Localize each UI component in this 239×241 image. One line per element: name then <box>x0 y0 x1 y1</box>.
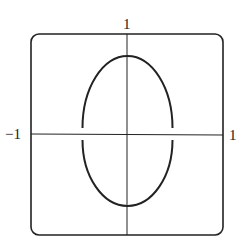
y-max-label: 1 <box>123 16 131 32</box>
graph-plot: 1 −1 1 <box>0 0 239 241</box>
x-max-label: 1 <box>229 127 237 143</box>
x-min-label: −1 <box>5 126 21 142</box>
